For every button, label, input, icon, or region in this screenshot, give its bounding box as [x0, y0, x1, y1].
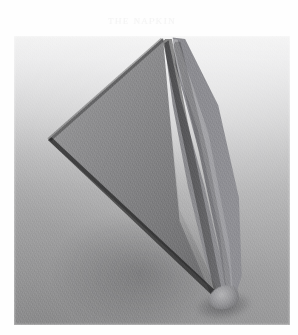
ghost-text: ᴛʜᴇ ɴᴀᴘᴋɪɴ	[108, 12, 227, 29]
photograph	[14, 36, 290, 325]
folded-napkin	[14, 36, 290, 325]
scanned-page: ᴛʜᴇ ɴᴀᴘᴋɪɴ	[0, 0, 298, 335]
